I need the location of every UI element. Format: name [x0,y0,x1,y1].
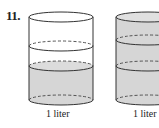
cylinder-left-top [29,12,93,22]
cylinder-right-top [116,12,159,22]
cylinder-left [29,12,93,105]
cylinder-right-liquid [116,12,159,105]
cylinder-right-label: 1 liter [133,108,157,119]
cylinder-left-label: 1 liter [46,108,70,119]
cylinder-right [116,12,159,105]
